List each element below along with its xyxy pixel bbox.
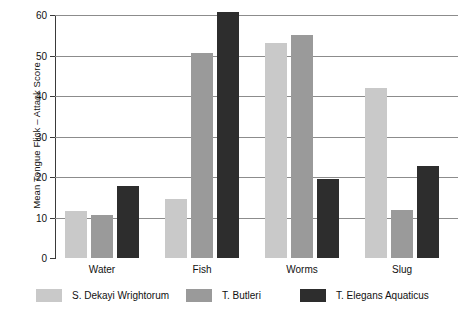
bar — [217, 12, 239, 258]
bar — [191, 53, 213, 258]
legend-swatch-icon — [300, 289, 326, 302]
bar-chart: Mean Tongue Flick – Attack Score 0102030… — [0, 0, 471, 311]
x-axis-label-fish: Fish — [193, 264, 212, 275]
y-tick-label: 60 — [36, 10, 47, 21]
y-tick-label: 30 — [36, 131, 47, 142]
legend-label: T. Butleri — [222, 290, 261, 301]
y-tick-mark — [50, 56, 55, 57]
bar — [65, 211, 87, 258]
bar — [291, 35, 313, 258]
legend-label: T. Elegans Aquaticus — [336, 290, 429, 301]
bar — [117, 186, 139, 258]
gridline — [55, 15, 458, 16]
y-tick-mark — [50, 177, 55, 178]
bar — [365, 88, 387, 258]
x-axis-label-worms: Worms — [286, 264, 317, 275]
bar — [417, 166, 439, 258]
y-tick-label: 40 — [36, 91, 47, 102]
gridline — [55, 137, 458, 138]
y-tick-label: 50 — [36, 50, 47, 61]
legend-item[interactable]: T. Butleri — [186, 286, 261, 304]
y-tick-label: 0 — [41, 253, 47, 264]
legend-item[interactable]: T. Elegans Aquaticus — [300, 286, 429, 304]
gridline — [55, 177, 458, 178]
legend-swatch-icon — [36, 289, 62, 302]
bar — [91, 215, 113, 258]
y-tick-label: 20 — [36, 172, 47, 183]
legend-label: S. Dekayi Wrightorum — [72, 290, 169, 301]
y-tick-mark — [50, 258, 55, 259]
y-tick-label: 10 — [36, 212, 47, 223]
plot-area: 0102030405060 — [55, 15, 458, 258]
bar — [165, 199, 187, 258]
bar — [317, 179, 339, 258]
x-axis-label-slug: Slug — [392, 264, 412, 275]
x-axis-label-water: Water — [89, 264, 115, 275]
bar — [265, 43, 287, 258]
y-tick-mark — [50, 15, 55, 16]
legend: S. Dekayi WrightorumT. ButleriT. Elegans… — [0, 286, 471, 308]
y-tick-mark — [50, 218, 55, 219]
y-tick-mark — [50, 96, 55, 97]
gridline — [55, 56, 458, 57]
bar — [391, 210, 413, 258]
legend-item[interactable]: S. Dekayi Wrightorum — [36, 286, 169, 304]
y-tick-mark — [50, 137, 55, 138]
gridline — [55, 96, 458, 97]
legend-swatch-icon — [186, 289, 212, 302]
